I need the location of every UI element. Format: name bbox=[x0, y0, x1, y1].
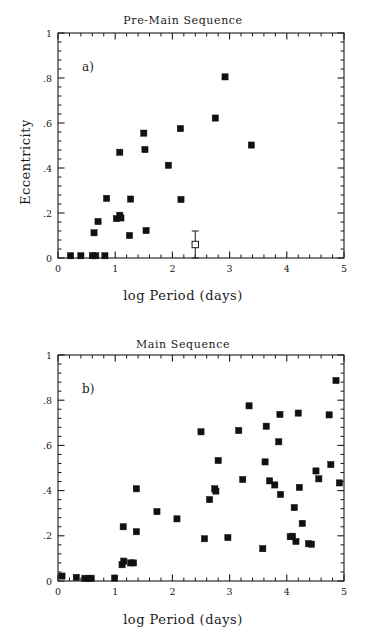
panel-a-letter: a) bbox=[82, 60, 94, 74]
data-point bbox=[93, 253, 99, 259]
svg-text:1: 1 bbox=[112, 586, 118, 597]
data-point bbox=[178, 196, 184, 202]
svg-text:.6: .6 bbox=[43, 440, 52, 451]
panel-a-xlabel: log Period (days) bbox=[0, 288, 366, 303]
data-point bbox=[141, 130, 147, 136]
svg-text:5: 5 bbox=[341, 586, 347, 597]
data-point bbox=[333, 377, 339, 383]
panel-b-plot: 0123450.2.4.6.81 bbox=[0, 320, 366, 639]
data-point bbox=[133, 486, 139, 492]
data-point bbox=[262, 459, 268, 465]
svg-text:1: 1 bbox=[112, 263, 118, 274]
data-point bbox=[293, 538, 299, 544]
svg-text:.4: .4 bbox=[43, 163, 52, 174]
data-point bbox=[308, 541, 314, 547]
svg-text:.6: .6 bbox=[43, 118, 52, 129]
data-point bbox=[121, 558, 127, 564]
svg-text:0: 0 bbox=[46, 576, 52, 587]
data-point bbox=[236, 427, 242, 433]
svg-text:.8: .8 bbox=[43, 395, 52, 406]
data-point bbox=[263, 423, 269, 429]
data-point bbox=[240, 476, 246, 482]
data-point bbox=[67, 253, 73, 259]
data-point bbox=[291, 504, 297, 510]
data-point bbox=[248, 142, 254, 148]
data-point bbox=[59, 573, 65, 579]
panel-a-ylabel: Eccentricity bbox=[18, 119, 33, 205]
svg-text:.2: .2 bbox=[43, 208, 52, 219]
data-point bbox=[313, 468, 319, 474]
series-0 bbox=[67, 74, 254, 259]
series-0 bbox=[59, 377, 343, 581]
panel-b-xlabel: log Period (days) bbox=[0, 612, 366, 627]
data-point bbox=[295, 410, 301, 416]
data-point bbox=[328, 462, 334, 468]
data-point bbox=[316, 476, 322, 482]
data-point bbox=[112, 575, 118, 581]
series-1 bbox=[192, 231, 199, 258]
svg-text:.8: .8 bbox=[43, 73, 52, 84]
data-point bbox=[128, 196, 134, 202]
figure-root: Pre-Main Sequence 0123450.2.4.6.81 Eccen… bbox=[0, 0, 366, 639]
data-point bbox=[133, 529, 139, 535]
data-point bbox=[154, 509, 160, 515]
data-point bbox=[246, 403, 252, 409]
svg-text:3: 3 bbox=[227, 586, 233, 597]
data-point bbox=[225, 535, 231, 541]
svg-text:.2: .2 bbox=[43, 530, 52, 541]
data-point bbox=[326, 412, 332, 418]
data-point bbox=[88, 575, 94, 581]
svg-text:2: 2 bbox=[169, 586, 175, 597]
data-point bbox=[272, 482, 278, 488]
data-point bbox=[120, 524, 126, 530]
data-point bbox=[260, 546, 266, 552]
panel-main-sequence: Main Sequence 0123450.2.4.6.81 Eccentric… bbox=[0, 320, 366, 639]
svg-text:0: 0 bbox=[55, 586, 61, 597]
data-point bbox=[222, 74, 228, 80]
data-point bbox=[296, 484, 302, 490]
svg-text:.4: .4 bbox=[43, 485, 52, 496]
panel-a-plot: 0123450.2.4.6.81 bbox=[0, 0, 366, 320]
svg-text:2: 2 bbox=[169, 263, 175, 274]
mean-marker bbox=[192, 241, 198, 247]
svg-text:0: 0 bbox=[46, 253, 52, 264]
data-point bbox=[276, 439, 282, 445]
svg-text:3: 3 bbox=[227, 263, 233, 274]
data-point bbox=[95, 218, 101, 224]
svg-text:0: 0 bbox=[55, 263, 61, 274]
svg-text:1: 1 bbox=[46, 28, 52, 39]
svg-text:4: 4 bbox=[284, 586, 290, 597]
panel-pre-main-sequence: Pre-Main Sequence 0123450.2.4.6.81 Eccen… bbox=[0, 0, 366, 320]
panel-b-letter: b) bbox=[82, 382, 94, 396]
data-point bbox=[213, 488, 219, 494]
data-point bbox=[277, 411, 283, 417]
data-point bbox=[126, 232, 132, 238]
data-point bbox=[78, 253, 84, 259]
data-point bbox=[206, 497, 212, 503]
data-point bbox=[117, 149, 123, 155]
data-point bbox=[104, 195, 110, 201]
data-point bbox=[215, 457, 221, 463]
data-point bbox=[165, 162, 171, 168]
data-point bbox=[201, 536, 207, 542]
data-point bbox=[177, 126, 183, 132]
data-point bbox=[299, 520, 305, 526]
data-point bbox=[102, 253, 108, 259]
data-point bbox=[277, 491, 283, 497]
data-point bbox=[336, 480, 342, 486]
data-point bbox=[142, 146, 148, 152]
data-point bbox=[174, 516, 180, 522]
data-point bbox=[198, 429, 204, 435]
svg-text:5: 5 bbox=[341, 263, 347, 274]
data-point bbox=[143, 227, 149, 233]
svg-text:4: 4 bbox=[284, 263, 290, 274]
data-point bbox=[130, 560, 136, 566]
svg-text:1: 1 bbox=[46, 350, 52, 361]
data-point bbox=[118, 215, 124, 221]
data-point bbox=[73, 574, 79, 580]
data-point bbox=[212, 115, 218, 121]
plot-frame bbox=[58, 355, 344, 581]
data-point bbox=[91, 230, 97, 236]
